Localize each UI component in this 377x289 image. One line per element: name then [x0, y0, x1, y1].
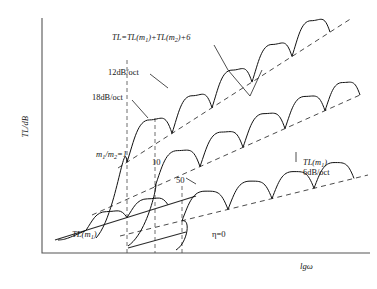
curve-m1/m2=1 [96, 19, 330, 238]
annotation-damping: η=0 [212, 230, 226, 240]
slope-18db-leader [132, 100, 148, 118]
annotation-slope-12db: 12dB/oct [108, 68, 139, 77]
chart-figure: TL=TL(m1)+TL(m2)+6 12dB/oct 18dB/oct m1/… [0, 0, 377, 289]
main-formula-leader [214, 45, 262, 96]
chart-plot-area [0, 0, 377, 289]
annotation-slope-18db: 18dB/oct [92, 93, 123, 102]
x-axis-label: lgω [300, 262, 313, 272]
axis-lines [42, 18, 370, 253]
curve-label-mass-ratio-1: m1/m2=1 [96, 150, 127, 160]
annotation-base-asymptote: TL(m1) [72, 230, 97, 240]
y-axis-label: TL/dB [21, 97, 31, 157]
annotation-right-asymptote: TL(m1)6dB/oct [303, 158, 330, 178]
transmission-loss-curves [58, 19, 360, 250]
annotation-main-formula: TL=TL(m1)+TL(m2)+6 [112, 33, 190, 43]
slope-12db-leader [150, 74, 168, 88]
asymptote-lines [55, 18, 368, 248]
curve-label-mass-ratio-10: 10 [152, 158, 161, 168]
label-50-leader [186, 178, 196, 184]
curve-label-mass-ratio-50: 50 [176, 176, 185, 186]
